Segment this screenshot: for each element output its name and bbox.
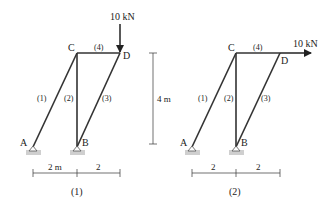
support-a bbox=[185, 146, 200, 155]
vertical-dimension bbox=[149, 53, 157, 144]
load-label: 10 kN bbox=[110, 11, 135, 22]
dim-label-right: 2 bbox=[256, 162, 261, 172]
member-3 bbox=[236, 53, 280, 147]
load-label: 10 kN bbox=[293, 38, 318, 49]
support-a bbox=[26, 146, 41, 155]
truss-diagram: A B C D (1) (2) (3) (4) 10 kN 2 m 2 (1) … bbox=[0, 0, 335, 208]
member-label-2: (2) bbox=[64, 94, 74, 103]
height-dim-label: 4 m bbox=[157, 94, 171, 104]
figure-caption: (1) bbox=[71, 186, 83, 198]
member-label-3: (3) bbox=[261, 94, 271, 103]
member-label-1: (1) bbox=[198, 94, 208, 103]
member-3 bbox=[77, 53, 120, 147]
dim-label-left: 2 bbox=[211, 162, 216, 172]
node-label-d: D bbox=[281, 55, 288, 66]
node-label-b: B bbox=[82, 137, 89, 148]
truss-figure-1: A B C D (1) (2) (3) (4) 10 kN 2 m 2 (1) bbox=[20, 11, 135, 198]
member-label-2: (2) bbox=[224, 94, 234, 103]
node-label-a: A bbox=[20, 137, 28, 148]
node-label-c: C bbox=[228, 42, 235, 53]
node-label-c: C bbox=[68, 42, 75, 53]
node-label-a: A bbox=[180, 137, 188, 148]
node-label-b: B bbox=[241, 137, 248, 148]
figure-caption: (2) bbox=[229, 186, 241, 198]
member-label-3: (3) bbox=[102, 94, 112, 103]
node-label-d: D bbox=[123, 50, 130, 61]
horizontal-dimension bbox=[33, 169, 120, 177]
dim-label-left: 2 m bbox=[48, 162, 62, 172]
dim-label-right: 2 bbox=[96, 162, 101, 172]
member-label-1: (1) bbox=[37, 94, 47, 103]
member-label-4: (4) bbox=[94, 43, 104, 52]
horizontal-dimension bbox=[192, 169, 280, 177]
truss-figure-2: A B C D (1) (2) (3) (4) 10 kN 2 2 (2) bbox=[180, 38, 318, 198]
member-label-4: (4) bbox=[253, 43, 263, 52]
